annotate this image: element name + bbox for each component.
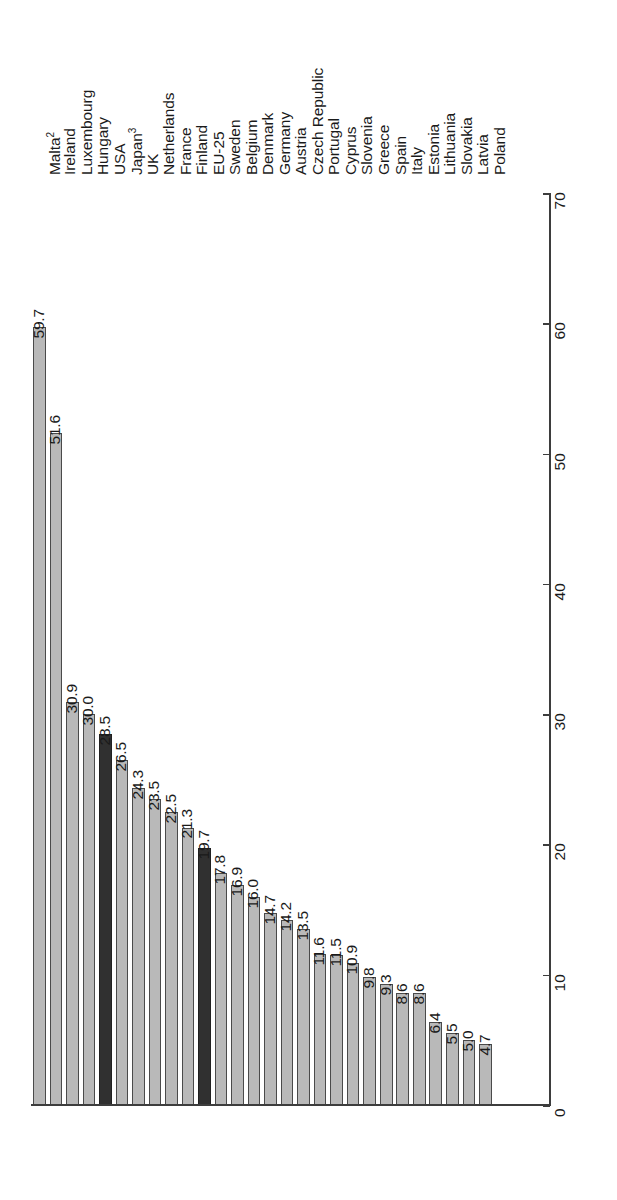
bar-portugal <box>314 954 327 1105</box>
category-label: Malta2 <box>46 132 63 175</box>
bar-malta <box>33 327 46 1105</box>
bar-austria <box>281 920 294 1105</box>
category-label: Hungary <box>95 117 111 175</box>
category-label: Belgium <box>244 120 260 175</box>
value-label: 9.8 <box>361 968 377 989</box>
bar-lithuania <box>429 1022 442 1105</box>
category-label: Denmark <box>260 113 276 175</box>
axis-tick <box>543 844 550 846</box>
value-label: 22.5 <box>162 794 178 823</box>
axis-tick <box>543 193 550 195</box>
bar-luxembourg <box>66 702 79 1105</box>
category-label: EU-25 <box>211 132 227 175</box>
footnote-marker: 3 <box>127 128 138 133</box>
value-label: 23.5 <box>146 781 162 810</box>
bar-france <box>165 812 178 1105</box>
value-label: 30.9 <box>63 685 79 714</box>
category-label: UK <box>145 154 161 175</box>
bar-germany <box>264 913 277 1105</box>
value-label: 8.6 <box>394 984 410 1005</box>
axis-tick <box>543 323 550 325</box>
value-label: 26.5 <box>113 742 129 771</box>
value-label: 4.7 <box>476 1034 492 1055</box>
value-label: 59.7 <box>30 309 46 338</box>
category-label: Ireland <box>62 128 78 175</box>
category-label: Lithuania <box>442 113 458 175</box>
bar-belgium <box>231 885 244 1105</box>
axis-tick-label: 20 <box>552 844 568 861</box>
value-label: 14.7 <box>261 896 277 925</box>
value-label: 30.0 <box>80 696 96 725</box>
axis-tick-label: 60 <box>552 322 568 339</box>
category-label: Japan3 <box>128 128 145 175</box>
value-label: 51.6 <box>47 415 63 444</box>
bar-greece <box>363 977 376 1105</box>
bar-cyprus <box>330 955 343 1105</box>
bar-uk <box>132 788 145 1105</box>
category-label: Finland <box>194 125 210 175</box>
value-label: 16.9 <box>228 867 244 896</box>
bar-slovenia <box>347 963 360 1105</box>
axis-tick-label: 0 <box>552 1108 568 1117</box>
axis-tick-label: 70 <box>552 192 568 209</box>
value-label: 13.5 <box>294 911 310 940</box>
bar-eu-25 <box>198 848 211 1105</box>
category-label: Italy <box>409 147 425 175</box>
axis-tick-label: 50 <box>552 453 568 470</box>
category-label: Spain <box>393 136 409 175</box>
value-label: 10.9 <box>344 945 360 974</box>
bar-denmark <box>248 897 261 1105</box>
bar-italy <box>396 993 409 1105</box>
value-label: 24.3 <box>129 771 145 800</box>
category-label: Estonia <box>426 124 442 175</box>
axis-tick <box>543 975 550 977</box>
axis-tick <box>543 714 550 716</box>
chart-figure: 59.751.630.930.028.526.524.323.522.521.3… <box>0 0 617 1200</box>
axis-tick <box>543 584 550 586</box>
bar-estonia <box>413 993 426 1105</box>
value-label: 11.5 <box>327 938 343 966</box>
bar-ireland <box>50 433 63 1105</box>
category-label: Latvia <box>475 134 491 175</box>
category-label: Poland <box>492 127 508 175</box>
value-label: 14.2 <box>278 902 294 931</box>
category-label: USA <box>112 143 128 175</box>
value-label: 5.5 <box>443 1024 459 1045</box>
axis-baseline <box>31 1104 551 1106</box>
axis-tick-label: 40 <box>552 583 568 600</box>
value-label: 17.8 <box>212 855 228 884</box>
bar-hungary <box>83 714 96 1105</box>
bar-netherlands <box>149 799 162 1105</box>
axis-tick-label: 30 <box>552 713 568 730</box>
category-label: Germany <box>277 112 293 175</box>
value-label: 6.4 <box>427 1012 443 1033</box>
category-label: Greece <box>376 125 392 175</box>
axis-tick-label: 10 <box>552 974 568 991</box>
value-label: 21.3 <box>179 810 195 839</box>
category-label: Luxembourg <box>79 90 95 175</box>
category-label: Czech Republic <box>310 68 326 175</box>
category-label: Sweden <box>227 120 243 175</box>
bar-spain <box>380 984 393 1105</box>
bar-sweden <box>215 873 228 1105</box>
value-label: 16.0 <box>245 879 261 908</box>
bar-czech-republic <box>297 929 310 1105</box>
bar-finland <box>182 828 195 1106</box>
category-label: Austria <box>293 127 309 175</box>
value-label: 5.0 <box>460 1030 476 1051</box>
bar-usa <box>99 734 112 1105</box>
category-label: Cyprus <box>343 127 359 176</box>
plot-area: 59.751.630.930.028.526.524.323.522.521.3… <box>0 0 617 1200</box>
value-label: 9.3 <box>377 974 393 995</box>
category-label: Slovenia <box>359 116 375 175</box>
category-label: France <box>178 127 194 175</box>
category-label: Netherlands <box>161 93 177 175</box>
value-label: 28.5 <box>96 716 112 745</box>
bar-japan <box>116 760 129 1105</box>
footnote-marker: 2 <box>45 132 56 137</box>
axis-tick <box>543 454 550 456</box>
category-label: Slovakia <box>459 117 475 175</box>
axis-tick <box>543 1105 550 1107</box>
category-label: Portugal <box>326 118 342 175</box>
value-label: 8.6 <box>410 984 426 1005</box>
